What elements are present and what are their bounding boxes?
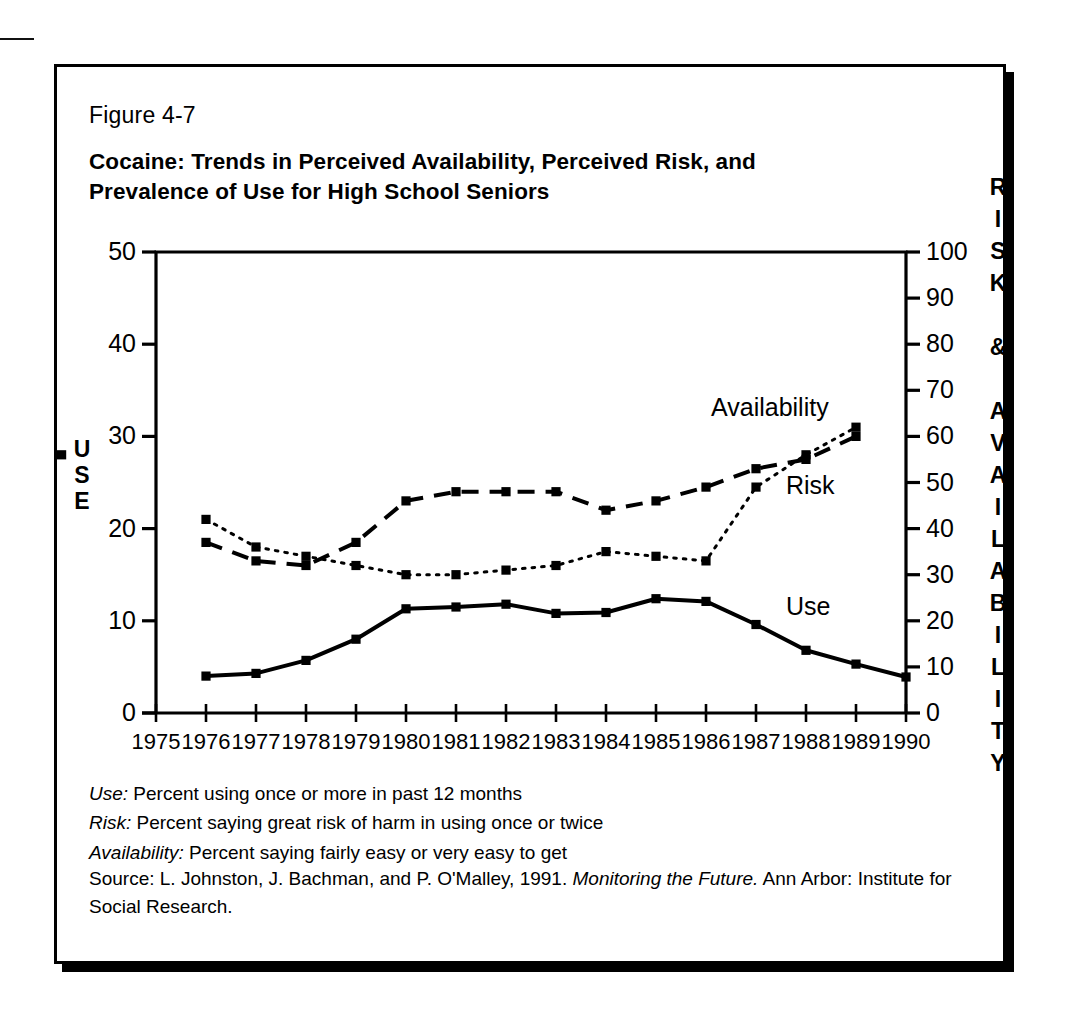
figure-container: Figure 4-7 Cocaine: Trends in Perceived … xyxy=(54,64,1006,964)
y-axis-title-right-letter: L xyxy=(991,526,1005,552)
series-marker-availability xyxy=(501,487,510,496)
series-marker-availability xyxy=(851,432,860,441)
y-axis-label-right: 100 xyxy=(926,237,968,265)
series-marker-use xyxy=(651,594,660,603)
note-use-text: Percent using once or more in past 12 mo… xyxy=(133,783,522,804)
x-axis-label: 1984 xyxy=(582,729,631,754)
y-axis-title-right-letter: A xyxy=(990,462,1007,488)
note-availability-text: Percent saying fairly easy or very easy … xyxy=(189,842,567,863)
x-axis-label: 1976 xyxy=(182,729,231,754)
y-axis-label-right: 20 xyxy=(926,606,954,634)
y-axis-label-right: 70 xyxy=(926,375,954,403)
y-axis-label-right: 60 xyxy=(926,421,954,449)
series-line-availability xyxy=(206,436,856,565)
y-axis-label-right: 10 xyxy=(926,652,954,680)
note-risk-text: Percent saying great risk of harm in usi… xyxy=(137,812,604,833)
series-marker-use xyxy=(751,620,760,629)
series-label-use: Use xyxy=(786,592,830,620)
note-risk-term: Risk: xyxy=(89,812,131,833)
x-axis-label: 1977 xyxy=(232,729,281,754)
series-marker-availability xyxy=(701,483,710,492)
series-marker-availability xyxy=(57,450,66,459)
note-availability-term: Availability: xyxy=(89,842,184,863)
page-edge-rule xyxy=(0,38,34,40)
series-marker-risk xyxy=(401,570,410,579)
note-risk: Risk: Percent saying great risk of harm … xyxy=(89,808,969,837)
series-marker-availability xyxy=(651,496,660,505)
y-axis-label-left: 0 xyxy=(122,698,136,726)
series-marker-availability xyxy=(751,464,760,473)
series-marker-availability xyxy=(351,538,360,547)
x-axis-label: 1986 xyxy=(682,729,731,754)
y-axis-title-right-letter: B xyxy=(990,590,1007,616)
series-marker-risk xyxy=(651,552,660,561)
y-axis-label-left: 20 xyxy=(108,514,136,542)
series-label-availability: Availability xyxy=(711,393,829,421)
y-axis-title-right-letter: L xyxy=(991,654,1005,680)
x-axis-label: 1980 xyxy=(382,729,431,754)
y-axis-label-left: 40 xyxy=(108,329,136,357)
series-label-risk: Risk xyxy=(786,471,835,499)
series-marker-use xyxy=(351,635,360,644)
x-axis-label: 1989 xyxy=(832,729,881,754)
series-marker-use xyxy=(701,597,710,606)
series-marker-use xyxy=(601,608,610,617)
note-use-term: Use: xyxy=(89,783,128,804)
series-marker-availability xyxy=(801,455,810,464)
series-marker-risk xyxy=(251,542,260,551)
x-axis-label: 1982 xyxy=(482,729,531,754)
x-axis-label: 1979 xyxy=(332,729,381,754)
series-marker-availability xyxy=(201,538,210,547)
y-axis-title-right-letter: A xyxy=(990,558,1007,584)
source-prefix: Source: L. Johnston, J. Bachman, and P. … xyxy=(89,868,572,889)
y-axis-title-right-letter: R xyxy=(990,174,1007,200)
y-axis-title-right-letter: I xyxy=(995,494,1001,520)
series-marker-risk xyxy=(301,552,310,561)
y-axis-title-right-letter: T xyxy=(991,718,1005,744)
y-axis-label-right: 90 xyxy=(926,283,954,311)
series-marker-use xyxy=(201,672,210,681)
series-marker-risk xyxy=(451,570,460,579)
x-axis-label: 1975 xyxy=(132,729,181,754)
y-axis-title-right-letter: S xyxy=(990,238,1005,264)
y-axis-title-right-letter: I xyxy=(995,686,1001,712)
source-italic-title: Monitoring the Future. xyxy=(572,868,758,889)
series-marker-risk xyxy=(751,483,760,492)
y-axis-title-right-letter: I xyxy=(995,206,1001,232)
y-axis-title-right-letter: A xyxy=(990,398,1007,424)
series-marker-use xyxy=(851,660,860,669)
y-axis-label-right: 50 xyxy=(926,468,954,496)
y-axis-title-left-letter: E xyxy=(74,488,89,514)
note-use: Use: Percent using once or more in past … xyxy=(89,779,969,808)
series-marker-risk xyxy=(351,561,360,570)
note-availability: Availability: Percent saying fairly easy… xyxy=(89,838,969,867)
y-axis-label-right: 40 xyxy=(926,514,954,542)
series-marker-risk xyxy=(201,515,210,524)
series-marker-availability xyxy=(301,561,310,570)
source-citation: Source: L. Johnston, J. Bachman, and P. … xyxy=(89,865,979,920)
series-marker-use xyxy=(301,656,310,665)
series-marker-use xyxy=(801,646,810,655)
series-marker-use xyxy=(401,604,410,613)
y-axis-title-right-letter: V xyxy=(990,430,1006,456)
series-marker-use xyxy=(901,672,910,681)
x-axis-label: 1981 xyxy=(432,729,481,754)
x-axis-label: 1987 xyxy=(732,729,781,754)
series-marker-risk xyxy=(701,556,710,565)
y-axis-label-left: 50 xyxy=(108,237,136,265)
series-marker-risk xyxy=(501,566,510,575)
y-axis-title-right-letter: K xyxy=(990,270,1007,296)
series-marker-use xyxy=(251,669,260,678)
x-axis-label: 1988 xyxy=(782,729,831,754)
x-axis-label: 1990 xyxy=(882,729,931,754)
y-axis-label-left: 30 xyxy=(108,421,136,449)
y-axis-label-left: 10 xyxy=(108,606,136,634)
y-axis-title-right-letter: Y xyxy=(990,750,1005,776)
series-marker-use xyxy=(551,609,560,618)
series-marker-use xyxy=(501,600,510,609)
x-axis-label: 1983 xyxy=(532,729,581,754)
x-axis-label: 1978 xyxy=(282,729,331,754)
series-marker-risk xyxy=(551,561,560,570)
y-axis-label-right: 30 xyxy=(926,560,954,588)
series-marker-use xyxy=(451,602,460,611)
